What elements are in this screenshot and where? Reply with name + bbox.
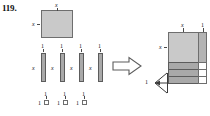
unit-tile-top-tick bbox=[84, 96, 85, 99]
x-tile-top-tick bbox=[100, 49, 101, 52]
unit-tile bbox=[63, 100, 68, 105]
x-tile-left-label: x bbox=[70, 65, 73, 71]
x-tile-top-tick bbox=[81, 49, 82, 52]
unit-tile bbox=[82, 100, 87, 105]
assembled-left-label-x: x bbox=[159, 44, 162, 50]
assembled-bracket-group: 1 bbox=[149, 72, 169, 94]
unit-tile bbox=[44, 100, 49, 105]
unit-tile-left-label: 1 bbox=[57, 100, 60, 106]
x-squared-top-tick bbox=[57, 8, 58, 11]
figure-canvas: 119. x x 1 x 1 x 1 x 1 x 1 1 1 bbox=[0, 0, 210, 116]
unit-tile-top-tick bbox=[46, 96, 47, 99]
x-tile bbox=[41, 53, 46, 82]
assembled-rectangle: x 1 x bbox=[168, 22, 208, 96]
assembled-left-tick-x bbox=[164, 47, 167, 48]
x-squared-left-tick bbox=[37, 24, 40, 25]
unit-tile-left-label: 1 bbox=[76, 100, 79, 106]
problem-number: 119. bbox=[2, 3, 16, 13]
x-tile-top-tick bbox=[62, 49, 63, 52]
assembled-rectangle-svg bbox=[168, 22, 208, 96]
x-tile-left-label: x bbox=[51, 65, 54, 71]
unit-tile-top-tick bbox=[65, 96, 66, 99]
bracket-label: 1 bbox=[145, 79, 148, 85]
assembled-top-tick-x bbox=[183, 28, 184, 32]
unit-tile-left-label: 1 bbox=[38, 100, 41, 106]
x-squared-tile bbox=[41, 10, 73, 38]
arrow-right-icon bbox=[112, 56, 142, 76]
x-tile-left-label: x bbox=[89, 65, 92, 71]
assembled-top-tick-1 bbox=[203, 28, 204, 32]
x-tile-top-tick bbox=[43, 49, 44, 52]
bracket-icon bbox=[149, 72, 169, 94]
x-tile bbox=[60, 53, 65, 82]
x-tile-left-label: x bbox=[32, 65, 35, 71]
x-squared-left-label: x bbox=[32, 21, 35, 27]
x-tile bbox=[98, 53, 103, 82]
x-tile bbox=[79, 53, 84, 82]
